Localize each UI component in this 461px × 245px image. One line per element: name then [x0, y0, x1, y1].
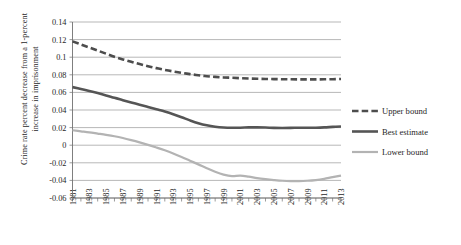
chart-legend: Upper boundBest estimateLower bound: [352, 106, 429, 157]
x-tick-label: 1983: [85, 188, 94, 205]
x-tick-label: 2011: [320, 189, 329, 205]
legend-label: Upper bound: [382, 106, 428, 116]
y-tick-label: 0.02: [52, 124, 67, 133]
y-tick-label: -0.02: [49, 159, 66, 168]
y-tick-label: 0.04: [52, 106, 67, 115]
x-tick-label: 2013: [337, 188, 346, 205]
gridlines: [73, 22, 342, 198]
legend-label: Lower bound: [382, 147, 429, 157]
y-tick-label: 0.14: [52, 18, 67, 27]
x-tick-label: 2001: [236, 188, 245, 205]
series-line-lower-bound: [73, 130, 342, 181]
x-tick-label: 1997: [203, 188, 212, 205]
data-series: [73, 41, 342, 181]
x-tick-label: 2007: [287, 188, 296, 205]
legend-label: Best estimate: [382, 127, 428, 137]
x-tick-label: 2005: [270, 188, 279, 205]
x-tick-label: 1985: [102, 188, 111, 205]
y-tick-label: 0.06: [52, 88, 67, 97]
x-tick-label: 1989: [136, 188, 145, 205]
x-tick-label: 1981: [69, 188, 78, 205]
y-axis-ticks: 0.140.120.10.080.060.040.020-0.02-0.04-0…: [49, 18, 72, 203]
y-tick-label: -0.06: [49, 194, 66, 203]
y-tick-label: 0: [62, 141, 66, 150]
y-tick-label: 0.1: [56, 53, 66, 62]
x-tick-label: 1993: [169, 188, 178, 205]
x-tick-label: 2003: [253, 188, 262, 205]
x-axis-ticks: 1981198319851987198919911993199519971999…: [69, 188, 347, 205]
x-tick-label: 2009: [304, 188, 313, 205]
line-chart-plot: 0.140.120.10.080.060.040.020-0.02-0.04-0…: [0, 0, 461, 245]
series-line-upper-bound: [73, 41, 342, 79]
x-tick-label: 1991: [153, 188, 162, 205]
x-tick-label: 1995: [186, 188, 195, 205]
x-tick-label: 1999: [220, 188, 229, 205]
y-tick-label: -0.04: [49, 176, 67, 185]
x-tick-label: 1987: [119, 188, 128, 205]
y-tick-label: 0.12: [52, 36, 67, 45]
series-line-best-estimate: [73, 87, 342, 128]
chart-figure: Crime rate percent decrease from a 1-per…: [0, 0, 461, 245]
y-tick-label: 0.08: [52, 71, 67, 80]
